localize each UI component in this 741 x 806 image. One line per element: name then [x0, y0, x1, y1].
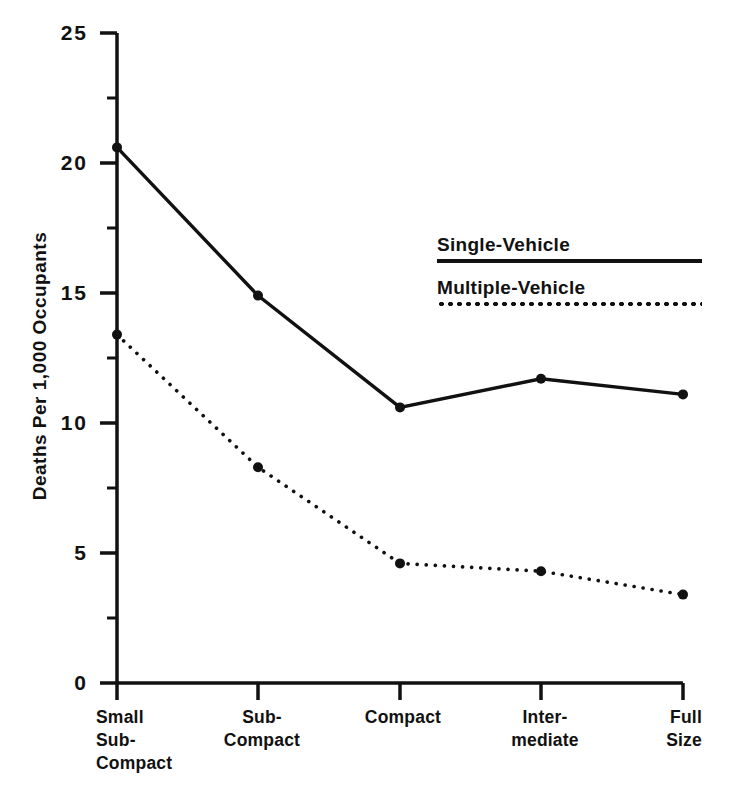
data-point-marker [395, 402, 405, 412]
legend-swatch-solid-line [437, 259, 702, 263]
x-tick-label-intermediate: Inter- mediate [511, 706, 579, 752]
series-line [117, 335, 683, 595]
data-point-marker [112, 330, 122, 340]
data-point-marker [678, 590, 688, 600]
data-point-marker [395, 558, 405, 568]
series-multiple-vehicle [112, 330, 688, 600]
data-point-marker [678, 389, 688, 399]
data-point-marker [253, 291, 263, 301]
legend: Single-Vehicle Multiple-Vehicle [437, 234, 702, 320]
data-point-marker [112, 142, 122, 152]
x-tick-label-compact: Compact [365, 706, 441, 729]
plot-canvas [0, 0, 741, 806]
x-tick-label-full-size: Full Size [666, 706, 702, 752]
x-tick-label-small-sub-compact: Small Sub- Compact [96, 706, 172, 775]
legend-swatch-dotted-line [437, 302, 702, 306]
legend-label-single-vehicle: Single-Vehicle [437, 234, 702, 259]
x-tick-label-sub-compact: Sub- Compact [224, 706, 300, 752]
data-point-marker [536, 566, 546, 576]
data-point-marker [536, 374, 546, 384]
data-point-marker [253, 462, 263, 472]
x-axis-ticks [117, 683, 683, 700]
legend-entry-multiple-vehicle: Multiple-Vehicle [437, 277, 702, 306]
chart-container: Deaths Per 1,000 Occupants 25 20 15 10 5… [0, 0, 741, 806]
legend-label-multiple-vehicle: Multiple-Vehicle [437, 277, 702, 302]
legend-entry-single-vehicle: Single-Vehicle [437, 234, 702, 263]
